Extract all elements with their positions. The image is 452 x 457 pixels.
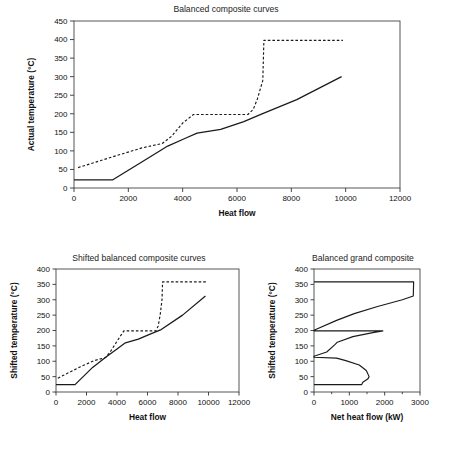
x-tick-label: 12000 [389, 194, 412, 203]
y-tick-label: 200 [37, 326, 51, 335]
chart-panel-balanced-grand-composite: Balanced grand composite 050100150200250… [258, 250, 452, 457]
y-tick-label: 350 [295, 280, 309, 289]
y-tick-label: 300 [54, 73, 68, 82]
x-axis-label-top: Heat flow [218, 208, 256, 218]
chart-title-bottom-right: Balanced grand composite [312, 253, 414, 263]
y-tick-label: 0 [63, 184, 68, 193]
shifted-cold-composite-curve [56, 296, 205, 385]
x-tick-label: 0 [54, 398, 59, 407]
x-tick-label: 6000 [139, 398, 157, 407]
x-tick-label: 8000 [169, 398, 187, 407]
y-axis-label-bottom-right: Shifted temperature (°C) [267, 282, 277, 379]
x-axis-label-bottom-left: Heat flow [129, 412, 167, 422]
figure-root: Balanced composite curves 05010015020025… [0, 0, 452, 457]
x-tick-label: 4000 [174, 194, 192, 203]
y-tick-label: 150 [37, 342, 51, 351]
y-tick-label: 250 [54, 91, 68, 100]
y-tick-label: 0 [46, 388, 51, 397]
plot-area-bottom-right: 050100150200250300350400 0100020003000 [295, 265, 430, 407]
y-tick-label: 100 [295, 357, 309, 366]
y-tick-label: 350 [37, 280, 51, 289]
y-tick-label: 200 [54, 110, 68, 119]
y-axis-ticks-top: 050100150200250300350400450 [54, 17, 74, 193]
y-axis-ticks-bottom-right: 050100150200250300350400 [295, 265, 314, 397]
y-tick-label: 350 [54, 54, 68, 63]
x-tick-label: 12000 [228, 398, 251, 407]
y-tick-label: 250 [37, 311, 51, 320]
plot-area-top: 050100150200250300350400450 020004000600… [54, 17, 412, 203]
y-tick-label: 400 [295, 265, 309, 274]
shifted-hot-composite-curve [58, 282, 207, 378]
y-tick-label: 50 [299, 373, 308, 382]
y-tick-label: 450 [54, 17, 68, 26]
x-axis-ticks-top: 020004000600080001000012000 [72, 188, 412, 203]
x-tick-label: 8000 [282, 194, 300, 203]
y-axis-label-bottom-left: Shifted temperature (°C) [9, 282, 19, 379]
y-tick-label: 200 [295, 326, 309, 335]
balanced-grand-composite-svg: Balanced grand composite 050100150200250… [258, 250, 452, 457]
y-axis-label-top: Actual temperature (°C) [26, 57, 36, 151]
chart-title-top: Balanced composite curves [173, 4, 278, 14]
y-tick-label: 150 [295, 342, 309, 351]
y-tick-label: 400 [54, 35, 68, 44]
cold-composite-curve-top [74, 77, 342, 180]
y-tick-label: 300 [295, 296, 309, 305]
chart-panel-shifted-balanced-composite-curves: Shifted balanced composite curves 050100… [0, 250, 262, 457]
y-axis-ticks-bottom-left: 050100150200250300350400 [37, 265, 56, 397]
y-tick-label: 400 [37, 265, 51, 274]
x-tick-label: 4000 [108, 398, 126, 407]
x-tick-label: 0 [72, 194, 77, 203]
hot-composite-curve-top [78, 40, 343, 167]
y-tick-label: 300 [37, 296, 51, 305]
x-tick-label: 10000 [335, 194, 358, 203]
x-tick-label: 2000 [78, 398, 96, 407]
balanced-grand-composite-curve [314, 282, 414, 385]
balanced-composite-curves-svg: Balanced composite curves 05010015020025… [0, 0, 452, 243]
y-tick-label: 150 [54, 128, 68, 137]
plot-area-bottom-left: 050100150200250300350400 020004000600080… [37, 265, 251, 407]
y-tick-label: 100 [37, 357, 51, 366]
x-tick-label: 0 [312, 398, 317, 407]
x-tick-label: 6000 [228, 194, 246, 203]
chart-panel-balanced-composite-curves: Balanced composite curves 05010015020025… [0, 0, 452, 243]
y-tick-label: 50 [59, 165, 68, 174]
x-tick-label: 3000 [411, 398, 429, 407]
x-tick-label: 2000 [376, 398, 394, 407]
x-axis-ticks-bottom-right: 0100020003000 [312, 392, 430, 407]
y-tick-label: 0 [304, 388, 309, 397]
y-tick-label: 250 [295, 311, 309, 320]
y-tick-label: 50 [41, 373, 50, 382]
plot-frame-top [74, 21, 400, 188]
x-tick-label: 1000 [340, 398, 358, 407]
x-axis-ticks-bottom-left: 020004000600080001000012000 [54, 392, 251, 407]
x-axis-label-bottom-right: Net heat flow (kW) [331, 412, 404, 422]
x-tick-label: 2000 [119, 194, 137, 203]
y-tick-label: 100 [54, 147, 68, 156]
chart-title-bottom-left: Shifted balanced composite curves [72, 253, 205, 263]
shifted-balanced-composite-curves-svg: Shifted balanced composite curves 050100… [0, 250, 262, 457]
x-tick-label: 10000 [197, 398, 220, 407]
